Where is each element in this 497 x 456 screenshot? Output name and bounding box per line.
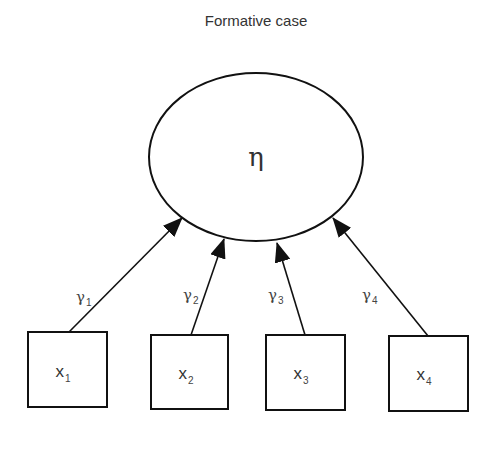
- path-labels: γ1 γ2 γ3 γ4: [76, 286, 378, 308]
- path-label-4: γ4: [362, 286, 378, 306]
- path-label-3: γ3: [268, 286, 284, 306]
- path-label-2: γ2: [183, 286, 199, 306]
- indicator-box-3: x3: [266, 335, 345, 410]
- path-arrow-1: [69, 218, 182, 332]
- indicators: x1 x2 x3 x4: [28, 332, 468, 411]
- diagram-title: Formative case: [205, 12, 308, 29]
- path-arrow-4: [333, 218, 428, 336]
- indicator-box-2: x2: [151, 335, 228, 409]
- path-arrow-2: [191, 239, 224, 335]
- formative-diagram: Formative case η γ1 γ2 γ3 γ4 x1 x2 x3 x4: [0, 0, 497, 456]
- latent-construct: η: [149, 73, 363, 241]
- latent-label: η: [248, 142, 264, 172]
- indicator-box-4: x4: [389, 336, 468, 411]
- indicator-box-1: x1: [28, 332, 107, 407]
- path-arrows: [69, 218, 428, 336]
- path-label-1: γ1: [76, 288, 92, 308]
- path-arrow-3: [277, 243, 305, 335]
